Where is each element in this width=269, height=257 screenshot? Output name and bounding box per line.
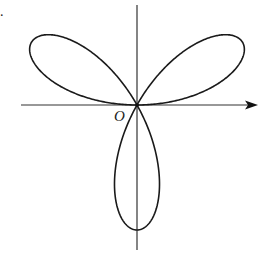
polar-rose-diagram: . O: [0, 0, 269, 257]
origin-point: [135, 103, 139, 107]
origin-label: O: [114, 108, 125, 124]
figure-marker: .: [0, 4, 4, 19]
